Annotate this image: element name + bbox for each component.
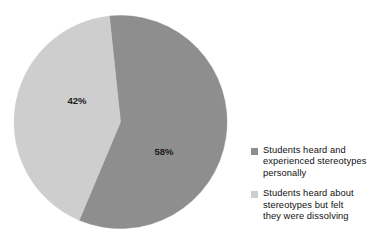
legend-line-2: experienced stereotypes [263, 156, 366, 166]
pie-slice-value-label-58: 58% [154, 146, 174, 157]
pie-svg: 58% 42% [0, 0, 240, 243]
legend-item-heard-about-dissolving[interactable]: Students heard aboutstereotypes but felt… [251, 188, 386, 222]
pie-slice-value-label-42: 42% [67, 95, 87, 106]
legend-color-swatch-icon [251, 148, 258, 155]
legend-line-3: they were dissolving [263, 211, 349, 221]
legend-line-1: Students heard and [263, 145, 346, 155]
legend-line-2: stereotypes but felt [263, 200, 343, 210]
legend: Students heard andexperienced stereotype… [251, 145, 386, 231]
legend-item-label: Students heard aboutstereotypes but felt… [263, 188, 354, 222]
pie-chart-figure: 58% 42% Students heard andexperienced st… [0, 0, 386, 243]
legend-color-swatch-icon [251, 191, 258, 198]
legend-item-heard-and-experienced[interactable]: Students heard andexperienced stereotype… [251, 145, 386, 179]
legend-item-label: Students heard andexperienced stereotype… [263, 145, 366, 179]
pie-plot-area: 58% 42% [0, 0, 240, 243]
pie-slices [14, 15, 227, 228]
legend-line-1: Students heard about [263, 188, 354, 198]
legend-line-3: personally [263, 168, 306, 178]
